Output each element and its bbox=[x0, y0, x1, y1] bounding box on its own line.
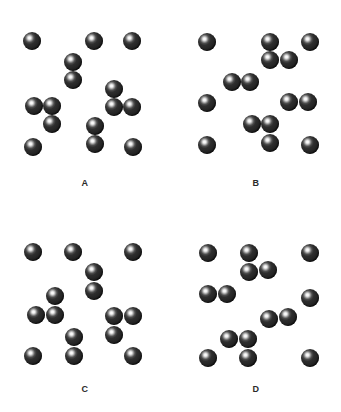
sphere bbox=[65, 347, 83, 365]
sphere bbox=[261, 134, 279, 152]
sphere bbox=[64, 53, 82, 71]
sphere bbox=[240, 263, 258, 281]
sphere bbox=[198, 94, 216, 112]
sphere bbox=[301, 289, 319, 307]
sphere bbox=[105, 98, 123, 116]
sphere bbox=[299, 93, 317, 111]
sphere bbox=[86, 117, 104, 135]
sphere bbox=[301, 33, 319, 51]
sphere bbox=[243, 115, 261, 133]
sphere bbox=[27, 306, 45, 324]
panel-d: D bbox=[171, 206, 341, 412]
panel-label-b: B bbox=[171, 178, 341, 188]
sphere bbox=[261, 51, 279, 69]
sphere bbox=[43, 115, 61, 133]
panel-label-d: D bbox=[171, 384, 341, 394]
sphere bbox=[105, 80, 123, 98]
sphere bbox=[24, 347, 42, 365]
sphere bbox=[259, 261, 277, 279]
sphere bbox=[85, 282, 103, 300]
sphere bbox=[301, 349, 319, 367]
sphere bbox=[240, 244, 258, 262]
sphere bbox=[223, 73, 241, 91]
panel-label-c: C bbox=[0, 384, 170, 394]
sphere bbox=[124, 243, 142, 261]
sphere bbox=[124, 307, 142, 325]
panel-c-particle-area bbox=[0, 206, 170, 381]
sphere bbox=[105, 307, 123, 325]
panel-a: A bbox=[0, 0, 170, 206]
panel-label-a: A bbox=[0, 178, 170, 188]
sphere bbox=[199, 285, 217, 303]
sphere bbox=[24, 138, 42, 156]
sphere bbox=[85, 32, 103, 50]
sphere bbox=[105, 326, 123, 344]
sphere bbox=[43, 97, 61, 115]
molecular-diagram-figure: ABCD bbox=[0, 0, 341, 412]
sphere bbox=[85, 263, 103, 281]
sphere bbox=[25, 97, 43, 115]
panel-d-particle-area bbox=[171, 206, 341, 381]
sphere bbox=[64, 71, 82, 89]
sphere bbox=[46, 306, 64, 324]
sphere bbox=[124, 138, 142, 156]
sphere bbox=[23, 32, 41, 50]
panel-b-particle-area bbox=[171, 0, 341, 175]
sphere bbox=[261, 33, 279, 51]
sphere bbox=[239, 349, 257, 367]
sphere bbox=[124, 347, 142, 365]
panel-b: B bbox=[171, 0, 341, 206]
sphere bbox=[280, 93, 298, 111]
sphere bbox=[65, 328, 83, 346]
sphere bbox=[218, 285, 236, 303]
sphere bbox=[199, 349, 217, 367]
panel-a-particle-area bbox=[0, 0, 170, 175]
sphere bbox=[220, 330, 238, 348]
sphere bbox=[280, 51, 298, 69]
sphere bbox=[239, 330, 257, 348]
sphere bbox=[46, 287, 64, 305]
sphere bbox=[199, 244, 217, 262]
sphere bbox=[64, 243, 82, 261]
sphere bbox=[261, 115, 279, 133]
sphere bbox=[301, 136, 319, 154]
sphere bbox=[123, 32, 141, 50]
sphere bbox=[260, 310, 278, 328]
panel-c: C bbox=[0, 206, 170, 412]
sphere bbox=[279, 308, 297, 326]
sphere bbox=[24, 243, 42, 261]
sphere bbox=[198, 33, 216, 51]
sphere bbox=[198, 136, 216, 154]
sphere bbox=[86, 135, 104, 153]
sphere bbox=[301, 244, 319, 262]
sphere bbox=[123, 98, 141, 116]
sphere bbox=[241, 73, 259, 91]
